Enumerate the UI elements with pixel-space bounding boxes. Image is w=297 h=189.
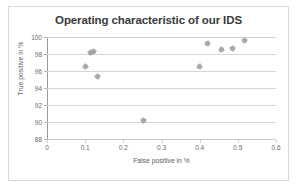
y-gridline bbox=[47, 88, 276, 89]
x-tick-mark bbox=[123, 140, 124, 143]
y-tick-label: 94 bbox=[35, 85, 42, 92]
x-tick-label: 0.1 bbox=[81, 144, 90, 151]
y-tick-mark bbox=[44, 122, 47, 123]
x-axis-title: False positive in % bbox=[47, 157, 276, 164]
x-tick-label: 0 bbox=[45, 144, 49, 151]
y-tick-label: 96 bbox=[35, 68, 42, 75]
y-gridline bbox=[47, 54, 276, 55]
y-gridline bbox=[47, 122, 276, 123]
x-tick-mark bbox=[200, 140, 201, 143]
y-axis-title: True positive in % bbox=[17, 34, 24, 104]
x-tick-label: 0.3 bbox=[157, 144, 166, 151]
x-tick-mark bbox=[47, 140, 48, 143]
chart-title: Operating characteristic of our IDS bbox=[9, 14, 288, 26]
data-point bbox=[91, 49, 96, 54]
y-gridline bbox=[47, 105, 276, 106]
y-tick-mark bbox=[44, 88, 47, 89]
y-tick-label: 90 bbox=[35, 119, 42, 126]
x-tick-mark bbox=[162, 140, 163, 143]
x-tick-label: 0.5 bbox=[233, 144, 242, 151]
x-tick-label: 0.2 bbox=[119, 144, 128, 151]
x-tick-label: 0.6 bbox=[271, 144, 280, 151]
data-point bbox=[242, 38, 247, 43]
y-tick-mark bbox=[44, 54, 47, 55]
data-point bbox=[205, 41, 210, 46]
x-tick-label: 0.4 bbox=[195, 144, 204, 151]
data-point bbox=[141, 118, 146, 123]
data-point bbox=[197, 64, 202, 69]
y-tick-label: 98 bbox=[35, 51, 42, 58]
x-tick-mark bbox=[238, 140, 239, 143]
y-tick-mark bbox=[44, 37, 47, 38]
data-point bbox=[219, 47, 224, 52]
x-tick-mark bbox=[85, 140, 86, 143]
y-tick-label: 100 bbox=[31, 34, 42, 41]
y-tick-label: 92 bbox=[35, 102, 42, 109]
data-point bbox=[230, 46, 235, 51]
data-point bbox=[83, 64, 88, 69]
y-tick-label: 88 bbox=[35, 136, 42, 143]
y-gridline bbox=[47, 71, 276, 72]
chart-container: Operating characteristic of our IDS Fals… bbox=[8, 6, 289, 181]
x-tick-mark bbox=[276, 140, 277, 143]
y-tick-mark bbox=[44, 71, 47, 72]
data-point bbox=[95, 74, 100, 79]
plot-area bbox=[47, 37, 276, 139]
y-tick-mark bbox=[44, 105, 47, 106]
